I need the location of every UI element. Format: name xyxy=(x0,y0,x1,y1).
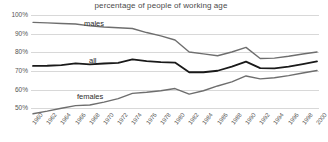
series-label-males: males xyxy=(84,19,104,28)
y-tick-label: 50% xyxy=(4,105,28,111)
plot-svg xyxy=(31,14,319,116)
y-tick-label: 60% xyxy=(4,87,28,93)
chart-title: percentage of people of working age xyxy=(0,1,322,10)
y-tick-label: 100% xyxy=(4,12,28,18)
y-tick-label: 70% xyxy=(4,68,28,74)
series-label-females: females xyxy=(77,92,103,101)
y-tick-label: 90% xyxy=(4,31,28,37)
series-lines xyxy=(33,22,317,113)
y-tick-label: 80% xyxy=(4,49,28,55)
y-axis: 50%60%70%80%90%100% xyxy=(2,0,28,142)
series-label-all: all xyxy=(89,56,97,65)
series-line-all xyxy=(33,59,317,72)
series-line-females xyxy=(33,71,317,114)
plot-area xyxy=(31,14,319,116)
x-axis: 1960196219641966196819701972197419761978… xyxy=(31,116,319,142)
